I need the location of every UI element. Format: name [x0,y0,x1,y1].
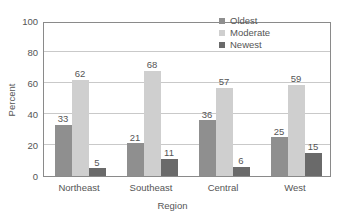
bar[interactable]: 36 [199,120,216,176]
legend-swatch-icon [219,30,225,36]
bar-value-label: 6 [238,156,243,166]
bar-slot: 59 [288,23,305,176]
bar-chart: Percent 020406080100 3362521681136576255… [0,0,345,223]
x-tick-label-central: Central [187,182,259,193]
x-tick-label-west: West [259,182,331,193]
legend-label: Oldest [230,16,257,26]
bar-value-label: 15 [308,142,319,152]
y-tick-label-20: 20 [0,141,38,151]
bar-slot: 62 [72,23,89,176]
bar-value-label: 25 [274,127,285,137]
bar[interactable]: 57 [216,88,233,176]
legend-label: Newest [230,40,262,50]
bar-value-label: 68 [147,60,158,70]
bar-slot: 21 [127,23,144,176]
bar[interactable]: 62 [72,80,89,176]
y-tick-label-0: 0 [0,172,38,182]
bar-group: 216811 [127,23,178,176]
bar[interactable]: 33 [55,125,72,176]
bar-value-label: 33 [58,114,69,124]
bar-group: 255915 [271,23,322,176]
y-tick-label-60: 60 [0,79,38,89]
x-tick-label-northeast: Northeast [43,182,115,193]
legend-swatch-icon [219,18,225,24]
bar[interactable]: 6 [233,167,250,176]
bar-slot: 33 [55,23,72,176]
legend-item-newest[interactable]: Newest [219,39,270,50]
x-axis-title: Region [0,200,345,211]
plot-area: 3362521681136576255915 [43,22,331,177]
bar[interactable]: 11 [161,159,178,176]
bar[interactable]: 5 [89,168,106,176]
legend: OldestModerateNewest [219,15,270,51]
bar-slot: 15 [305,23,322,176]
bar-slot: 36 [199,23,216,176]
y-tick-label-80: 80 [0,48,38,58]
bar-value-label: 57 [219,77,230,87]
legend-swatch-icon [219,42,225,48]
legend-label: Moderate [230,28,270,38]
bar[interactable]: 59 [288,85,305,176]
y-tick-label-40: 40 [0,110,38,120]
bar[interactable]: 68 [144,71,161,176]
bar-value-label: 11 [164,148,174,158]
legend-item-moderate[interactable]: Moderate [219,27,270,38]
bar-group: 33625 [55,23,106,176]
y-tick-label-100: 100 [0,17,38,27]
bar[interactable]: 25 [271,137,288,176]
bar[interactable]: 21 [127,143,144,176]
bar-value-label: 62 [75,69,86,79]
bar-slot: 68 [144,23,161,176]
bar-value-label: 36 [202,110,213,120]
bar-slot: 11 [161,23,178,176]
bar-slot: 5 [89,23,106,176]
y-axis-title: Percent [4,22,18,177]
legend-item-oldest[interactable]: Oldest [219,15,270,26]
bar-value-label: 59 [291,74,302,84]
bar[interactable]: 15 [305,153,322,176]
x-tick-label-southeast: Southeast [115,182,187,193]
bar-slot: 25 [271,23,288,176]
bar-value-label: 5 [94,158,99,168]
bar-value-label: 21 [130,133,141,143]
